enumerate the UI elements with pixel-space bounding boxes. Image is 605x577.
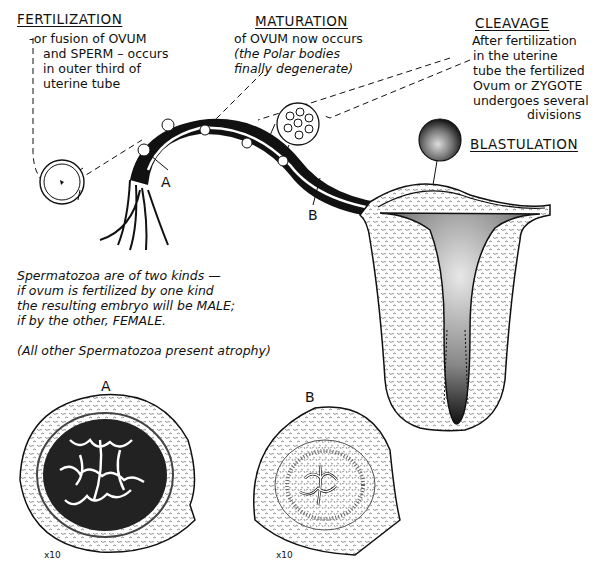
section-b-magnification: x10 [276, 550, 293, 560]
tube-marker-a: A [161, 174, 171, 190]
cleavage-line-4: Ovum or ZYGOTE [473, 78, 582, 94]
cleavage-heading: CLEAVAGE [475, 15, 549, 31]
cleavage-line-3: tube the fertilized [473, 63, 585, 79]
cross-section-a [20, 395, 195, 553]
section-b-label: B [305, 389, 315, 405]
maturation-line-1: of OVUM now occurs [234, 31, 363, 47]
maturation-italic-1: (the Polar bodies [234, 46, 340, 62]
fertilization-heading: FERTILIZATION [17, 11, 122, 27]
blastulation-heading: BLASTULATION [470, 136, 578, 152]
fertilization-line-4: uterine tube [43, 76, 120, 92]
fertilization-line-3: in outer third of [43, 61, 141, 77]
maturation-italic-2: finally degenerate) [234, 61, 353, 77]
spermatozoa-line-2: if ovum is fertilized by one kind [17, 283, 214, 299]
cleavage-line-2: in the uterine [473, 48, 558, 64]
tube-marker-b: B [308, 207, 318, 223]
cleavage-line-6: divisions [527, 107, 581, 123]
section-a-label: A [101, 378, 111, 394]
fertilization-line-1: -or fusion of OVUM [29, 31, 146, 47]
spermatozoa-line-4: if by the other, FEMALE. [17, 313, 166, 329]
uterus [360, 184, 550, 431]
section-a-magnification: x10 [44, 550, 61, 560]
spermatozoa-footnote: (All other Spermatozoa present atrophy) [17, 343, 271, 359]
maturation-heading: MATURATION [255, 13, 348, 29]
cross-section-b [254, 407, 400, 555]
fertilized-ovum-icon [40, 160, 84, 204]
cleavage-line-1: After fertilization [472, 33, 577, 49]
spermatozoa-line-3: the resulting embryo will be MALE; [17, 298, 235, 314]
fertilization-line-2: and SPERM – occurs [43, 46, 169, 62]
spermatozoa-line-1: Spermatozoa are of two kinds — [17, 268, 221, 284]
